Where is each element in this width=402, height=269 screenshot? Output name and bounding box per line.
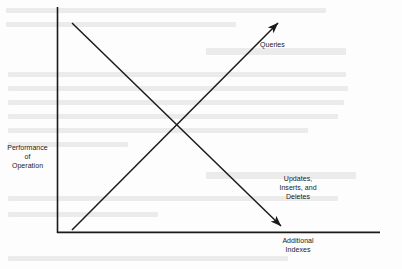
updates-series-label-line-1: Updates,	[262, 174, 334, 183]
x-axis-label-line-1: Additional	[264, 236, 332, 245]
y-axis-label: Performance of Operation	[0, 143, 55, 171]
updates-series-label: Updates, Inserts, and Deletes	[262, 174, 334, 202]
y-axis-label-line-3: Operation	[0, 161, 55, 170]
y-axis-label-line-1: Performance	[0, 143, 55, 152]
updates-series-label-line-2: Inserts, and	[262, 183, 334, 192]
x-axis-label: Additional Indexes	[264, 236, 332, 254]
diagram-figure: Performance of Operation Additional Inde…	[0, 0, 402, 269]
plot-area	[0, 0, 402, 269]
queries-series-label-line-1: Queries	[260, 40, 320, 49]
updates-series-label-line-3: Deletes	[262, 192, 334, 201]
queries-series-label: Queries	[260, 40, 320, 49]
updates-trend-line	[72, 23, 281, 226]
y-axis-label-line-2: of	[0, 152, 55, 161]
x-axis-label-line-2: Indexes	[264, 245, 332, 254]
